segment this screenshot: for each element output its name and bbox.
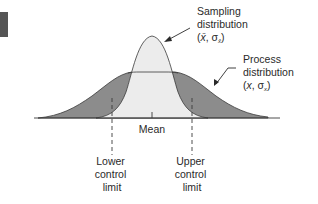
lower-control-limit-label: Lower control limit <box>95 155 129 193</box>
process-distribution-label: Process distribution <box>243 53 294 78</box>
sampling-distribution-label: Sampling distribution <box>197 5 248 30</box>
process-distribution-params: (x, σx) <box>243 79 271 92</box>
sampling-arrow-icon <box>164 28 190 42</box>
control-chart-diagram: Sampling distribution (x̄, σx̄) Process … <box>0 0 318 204</box>
process-arrow-icon <box>214 68 236 86</box>
upper-control-limit-label: Upper control limit <box>175 155 209 193</box>
corner-block <box>0 12 8 37</box>
sampling-distribution-params: (x̄, σx̄) <box>197 31 225 44</box>
mean-label: Mean <box>139 123 165 135</box>
